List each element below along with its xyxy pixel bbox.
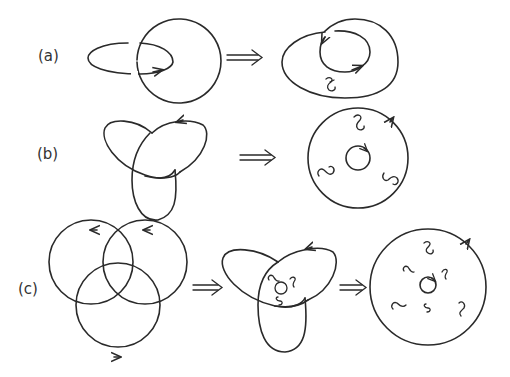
implies-arrow-c1	[193, 280, 222, 295]
trefoil-knot	[104, 120, 207, 220]
implies-arrow-a	[227, 50, 262, 65]
twisted-disk-c	[370, 229, 486, 345]
knot-diagram	[0, 0, 510, 377]
hopf-link	[88, 19, 221, 103]
twisted-disk-a	[282, 19, 398, 98]
twisted-disk-b	[308, 108, 408, 208]
implies-arrow-c2	[340, 280, 366, 295]
trefoil-surface	[222, 247, 336, 352]
borromean-rings	[49, 220, 187, 357]
implies-arrow-b	[240, 150, 275, 165]
